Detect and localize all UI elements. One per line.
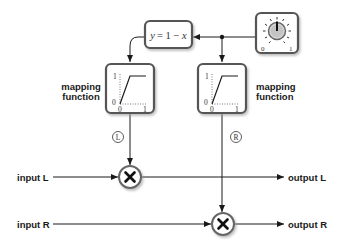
multiplier-l (119, 166, 141, 188)
output-r-label: output R (288, 219, 327, 230)
axis-y-bottom-label: 0 (112, 98, 116, 107)
formula-box: y= 1 − x (145, 21, 192, 48)
connections (53, 35, 284, 224)
axis-y-bottom-label: 0 (204, 98, 208, 107)
stereo-panning-diagram: y= 1 − x 0 1 (0, 0, 345, 248)
axis-y-top-label: 1 (113, 72, 117, 81)
mapping-right-label-2: function (256, 91, 294, 102)
formula-to-mapping-left-line (130, 37, 145, 62)
knob-min-label: 0 (261, 45, 265, 53)
axis-x-right-label: 1 (235, 105, 239, 114)
svg-text:R: R (233, 133, 238, 142)
channel-marker-l: L (113, 132, 124, 143)
mapping-function-left: 1 0 0 1 (106, 64, 154, 114)
knob-control[interactable]: 0 1 (256, 13, 298, 53)
axis-y-top-label: 1 (205, 72, 209, 81)
input-l-label: input L (17, 172, 49, 183)
axis-x-left-label: 0 (210, 105, 214, 114)
knob-max-label: 1 (289, 45, 293, 53)
axis-x-right-label: 1 (143, 105, 147, 114)
svg-text:L: L (116, 133, 121, 142)
mapping-left-label-2: function (62, 91, 100, 102)
input-r-label: input R (17, 219, 50, 230)
mapping-function-right: 1 0 0 1 (198, 64, 246, 114)
formula-text: y= 1 − x (149, 30, 187, 41)
output-l-label: output L (288, 172, 326, 183)
axis-x-left-label: 0 (118, 105, 122, 114)
channel-marker-r: R (231, 132, 242, 143)
multiplier-r (212, 213, 234, 235)
